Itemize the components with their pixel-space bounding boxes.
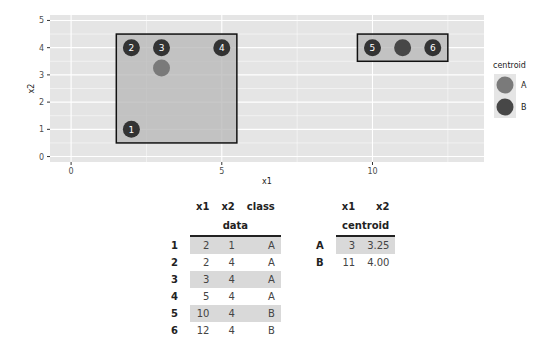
point-label: 6 (430, 43, 436, 53)
cell-x2: 1 (215, 236, 240, 254)
y-tick-label: 0 (39, 153, 44, 162)
cell-x2: 4 (215, 322, 240, 339)
cell-class: A (241, 236, 281, 254)
point-label: 5 (370, 43, 376, 53)
centroid-col-x2: x2 (361, 198, 395, 215)
data-col-x2: x2 (215, 198, 240, 215)
data-table-title: data (190, 215, 281, 236)
cell-x2: 4 (215, 271, 240, 288)
x-tick-label: 5 (219, 167, 224, 176)
cell-class: B (241, 322, 281, 339)
centroid-marker-A (153, 60, 170, 77)
cell-x1: 12 (190, 322, 215, 339)
legend-title: centroid (493, 61, 526, 70)
cell-x2: 3.25 (361, 236, 395, 254)
centroid-table-title: centroid (336, 215, 396, 236)
row-name: 1 (165, 236, 190, 254)
row-name: 6 (165, 322, 190, 339)
point-label: 3 (159, 43, 165, 53)
cell-x1: 2 (190, 254, 215, 271)
cell-x1: 11 (336, 254, 361, 271)
table-row: 6124B (165, 322, 281, 339)
cell-x1: 2 (190, 236, 215, 254)
x-tick-label: 0 (69, 167, 74, 176)
cell-class: B (241, 305, 281, 322)
table-row: B114.00 (310, 254, 395, 271)
legend: centroidAB (493, 61, 527, 118)
centroid-table: centroid x1x2 A33.25B114.00 (310, 198, 395, 271)
row-name: 3 (165, 271, 190, 288)
row-name: A (310, 236, 336, 254)
table-row: 334A (165, 271, 281, 288)
legend-marker-B (497, 99, 514, 116)
point-label: 1 (129, 125, 135, 135)
legend-label: B (521, 103, 527, 112)
cell-class: A (241, 254, 281, 271)
point-label: 4 (219, 43, 225, 53)
table-row: 454A (165, 288, 281, 305)
legend-label: A (521, 81, 527, 90)
y-tick-label: 4 (39, 44, 44, 53)
row-name: B (310, 254, 336, 271)
row-name: 4 (165, 288, 190, 305)
cell-class: A (241, 288, 281, 305)
point-label: 2 (129, 43, 135, 53)
data-table: data x1x2class 121A224A334A454A5104B6124… (165, 198, 281, 339)
cell-x1: 5 (190, 288, 215, 305)
data-col-x1: x1 (190, 198, 215, 215)
row-name: 2 (165, 254, 190, 271)
legend-marker-A (497, 77, 514, 94)
x-axis-label: x1 (262, 177, 272, 186)
cell-x2: 4 (215, 288, 240, 305)
x-tick-label: 10 (367, 167, 377, 176)
y-tick-label: 3 (39, 71, 44, 80)
scatter-plot: 123456 0123450510x1x2 centroidAB (0, 0, 549, 195)
table-row: 5104B (165, 305, 281, 322)
centroid-col-x1: x1 (336, 198, 361, 215)
table-row: 224A (165, 254, 281, 271)
row-name: 5 (165, 305, 190, 322)
cell-x1: 3 (336, 236, 361, 254)
data-col-class: class (241, 198, 281, 215)
y-tick-label: 2 (39, 98, 44, 107)
cell-x2: 4.00 (361, 254, 395, 271)
cell-x1: 3 (190, 271, 215, 288)
cell-x1: 10 (190, 305, 215, 322)
y-tick-label: 5 (39, 16, 44, 25)
table-row: A33.25 (310, 236, 395, 254)
y-tick-label: 1 (39, 125, 44, 134)
cell-class: A (241, 271, 281, 288)
centroid-marker-B (394, 39, 411, 56)
table-row: 121A (165, 236, 281, 254)
cell-x2: 4 (215, 305, 240, 322)
y-axis-label: x2 (27, 84, 36, 94)
cell-x2: 4 (215, 254, 240, 271)
